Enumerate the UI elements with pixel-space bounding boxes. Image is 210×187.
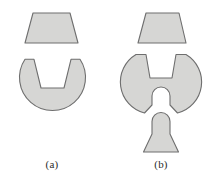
figure-container: (a) (b)	[0, 0, 210, 187]
trapezoid-key-a	[25, 13, 78, 43]
notched-disc-a	[20, 59, 86, 110]
panel-caption-b: (b)	[131, 158, 191, 170]
panel-caption-a: (a)	[22, 158, 82, 170]
plug-b	[144, 113, 179, 153]
panel-b-graphics	[120, 13, 201, 152]
notched-disc-b	[120, 55, 201, 114]
trapezoid-key-b	[138, 13, 186, 43]
panel-a-graphics	[20, 13, 86, 111]
